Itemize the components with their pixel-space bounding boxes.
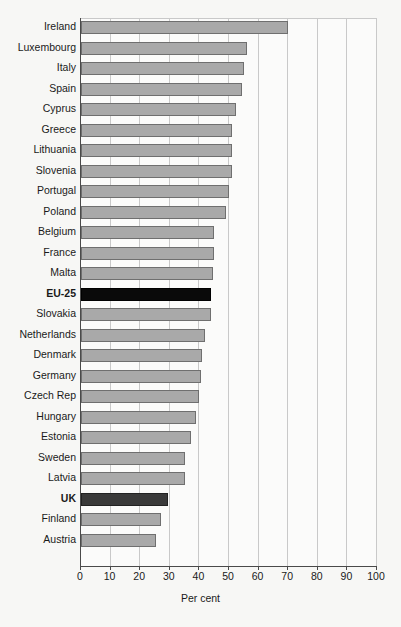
bar-row: Estonia <box>0 428 401 449</box>
category-label-belgium: Belgium <box>0 225 76 238</box>
bar-row: Latvia <box>0 469 401 490</box>
category-label-estonia: Estonia <box>0 430 76 443</box>
bar-row: Malta <box>0 264 401 285</box>
bar-row: Germany <box>0 367 401 388</box>
category-label-spain: Spain <box>0 82 76 95</box>
bar-row: Slovenia <box>0 162 401 183</box>
bar-estonia <box>81 431 191 444</box>
category-label-uk: UK <box>0 492 76 505</box>
tick-label-20: 20 <box>133 570 145 582</box>
bar-row: Poland <box>0 203 401 224</box>
x-axis-tick-labels: 0102030405060708090100 <box>0 570 401 586</box>
bar-row: Austria <box>0 531 401 552</box>
category-label-slovenia: Slovenia <box>0 164 76 177</box>
bar-belgium <box>81 226 214 239</box>
bar-chart: IrelandLuxembourgItalySpainCyprusGreeceL… <box>0 0 401 627</box>
bar-cyprus <box>81 103 236 116</box>
bar-row: Spain <box>0 80 401 101</box>
category-label-slovakia: Slovakia <box>0 307 76 320</box>
category-label-sweden: Sweden <box>0 451 76 464</box>
category-label-malta: Malta <box>0 266 76 279</box>
bar-row: Slovakia <box>0 305 401 326</box>
bar-germany <box>81 370 201 383</box>
category-label-denmark: Denmark <box>0 348 76 361</box>
category-label-hungary: Hungary <box>0 410 76 423</box>
bar-finland <box>81 513 161 526</box>
bar-portugal <box>81 185 229 198</box>
bar-row: UK <box>0 490 401 511</box>
bar-row: Luxembourg <box>0 39 401 60</box>
tick-label-70: 70 <box>281 570 293 582</box>
tick-label-30: 30 <box>163 570 175 582</box>
bar-luxembourg <box>81 42 247 55</box>
bar-row: Finland <box>0 510 401 531</box>
bar-czech-rep <box>81 390 199 403</box>
x-axis-title: Per cent <box>0 592 401 604</box>
bar-ireland <box>81 21 288 34</box>
category-label-netherlands: Netherlands <box>0 328 76 341</box>
bar-row: Belgium <box>0 223 401 244</box>
bar-lithuania <box>81 144 232 157</box>
category-label-lithuania: Lithuania <box>0 143 76 156</box>
category-label-germany: Germany <box>0 369 76 382</box>
category-label-portugal: Portugal <box>0 184 76 197</box>
category-label-finland: Finland <box>0 512 76 525</box>
bar-row: Italy <box>0 59 401 80</box>
bar-greece <box>81 124 232 137</box>
bar-row: Hungary <box>0 408 401 429</box>
bar-row: Ireland <box>0 18 401 39</box>
category-label-eu-25: EU-25 <box>0 287 76 300</box>
bar-sweden <box>81 452 185 465</box>
tick-label-90: 90 <box>341 570 353 582</box>
bar-row: EU-25 <box>0 285 401 306</box>
bar-hungary <box>81 411 196 424</box>
bar-malta <box>81 267 213 280</box>
category-label-poland: Poland <box>0 205 76 218</box>
category-label-luxembourg: Luxembourg <box>0 41 76 54</box>
category-label-greece: Greece <box>0 123 76 136</box>
category-label-cyprus: Cyprus <box>0 102 76 115</box>
bar-netherlands <box>81 329 205 342</box>
category-label-latvia: Latvia <box>0 471 76 484</box>
bar-row: Denmark <box>0 346 401 367</box>
bar-slovenia <box>81 165 232 178</box>
bar-row: France <box>0 244 401 265</box>
category-label-czech-rep: Czech Rep <box>0 389 76 402</box>
bar-row: Portugal <box>0 182 401 203</box>
tick-label-10: 10 <box>104 570 116 582</box>
bar-rows: IrelandLuxembourgItalySpainCyprusGreeceL… <box>0 18 401 551</box>
bar-row: Cyprus <box>0 100 401 121</box>
bar-denmark <box>81 349 202 362</box>
bar-eu-25 <box>81 288 211 301</box>
bar-row: Greece <box>0 121 401 142</box>
bar-uk <box>81 493 168 506</box>
bar-row: Sweden <box>0 449 401 470</box>
bar-italy <box>81 62 244 75</box>
tick-label-40: 40 <box>193 570 205 582</box>
bar-latvia <box>81 472 185 485</box>
category-label-austria: Austria <box>0 533 76 546</box>
tick-label-0: 0 <box>77 570 83 582</box>
bar-spain <box>81 83 242 96</box>
bar-austria <box>81 534 156 547</box>
bar-slovakia <box>81 308 211 321</box>
tick-label-60: 60 <box>252 570 264 582</box>
bar-france <box>81 247 214 260</box>
category-label-ireland: Ireland <box>0 20 76 33</box>
bar-row: Netherlands <box>0 326 401 347</box>
bar-poland <box>81 206 226 219</box>
tick-label-100: 100 <box>367 570 385 582</box>
tick-label-80: 80 <box>311 570 323 582</box>
category-label-italy: Italy <box>0 61 76 74</box>
category-label-france: France <box>0 246 76 259</box>
bar-row: Czech Rep <box>0 387 401 408</box>
bar-row: Lithuania <box>0 141 401 162</box>
tick-label-50: 50 <box>222 570 234 582</box>
